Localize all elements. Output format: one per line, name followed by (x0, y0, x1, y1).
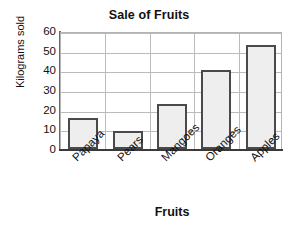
y-axis-title: Kilograms sold (14, 0, 26, 112)
gridline-vertical (105, 33, 106, 149)
gridline-horizontal (61, 33, 281, 34)
y-axis-tick-label: 0 (30, 144, 56, 156)
bar-chart-figure: Sale of Fruits Kilograms sold 0102030405… (0, 0, 298, 227)
y-axis-tick-label: 50 (30, 46, 56, 58)
gridline-vertical (150, 33, 151, 149)
y-axis-tick-label: 20 (30, 105, 56, 117)
y-axis-tick-label: 40 (30, 65, 56, 77)
y-axis-tick-label: 10 (30, 124, 56, 136)
chart-title: Sale of Fruits (0, 8, 298, 22)
y-axis-tick-label: 30 (30, 85, 56, 97)
x-axis-title: Fruits (60, 205, 284, 219)
y-axis-tick-label: 60 (30, 26, 56, 38)
y-axis-tick-labels: 0102030405060 (30, 32, 56, 150)
